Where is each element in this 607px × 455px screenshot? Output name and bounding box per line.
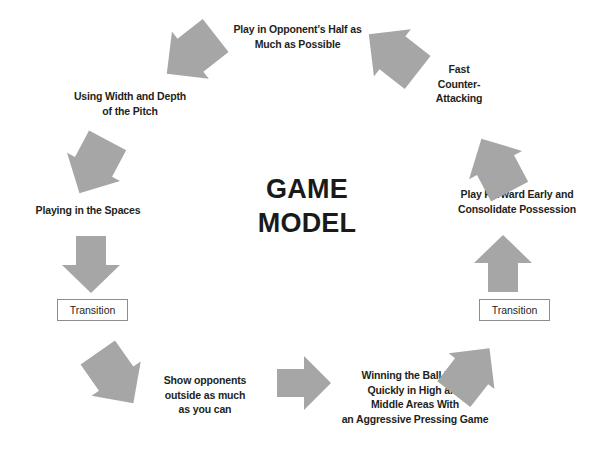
arrow-right-upper-icon	[460, 131, 532, 201]
arrow-bottom-right-icon	[436, 338, 506, 406]
arrow-bottom-left-icon	[78, 341, 152, 413]
game-model-diagram: GAME MODEL Play in Opponent’s Half as Mu…	[0, 0, 607, 455]
node-label-playing-in-the-spaces: Playing in the Spaces	[14, 203, 162, 218]
arrow-top-right-icon	[358, 18, 430, 90]
arrow-right-up-icon	[470, 232, 536, 296]
transition-box-right: Transition	[479, 299, 550, 321]
transition-box-left: Transition	[57, 299, 128, 321]
transition-box-right-label: Transition	[492, 305, 538, 316]
arrow-top-left-icon	[156, 18, 228, 90]
node-label-show-opponents-outside: Show opponents outside as much as you ca…	[146, 373, 264, 417]
arrow-left-upper-icon	[57, 131, 131, 201]
node-label-using-width-and-depth: Using Width and Depth of the Pitch	[48, 89, 212, 118]
arrow-bottom-center-icon	[273, 352, 335, 414]
arrow-left-down-icon	[58, 232, 124, 296]
page-title: GAME MODEL	[227, 172, 387, 240]
transition-box-left-label: Transition	[70, 305, 116, 316]
